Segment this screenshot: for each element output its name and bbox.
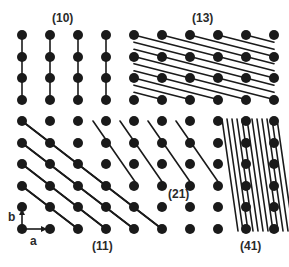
- label-21: (21): [168, 187, 189, 201]
- lattice-point: [17, 95, 27, 105]
- plane-line: [277, 119, 289, 231]
- lattice-point: [17, 73, 27, 83]
- lattice-point: [45, 30, 55, 40]
- lattice-point: [213, 138, 223, 148]
- lattice-point: [45, 52, 55, 62]
- lattice-point: [185, 30, 195, 40]
- lattice-point: [241, 224, 251, 234]
- lattice-point: [73, 116, 83, 126]
- lattice-point: [241, 202, 251, 212]
- lattice-point: [101, 52, 111, 62]
- plane-line: [148, 121, 193, 186]
- lattice-point: [185, 202, 195, 212]
- lattice-point: [157, 181, 167, 191]
- lattice-point: [73, 52, 83, 62]
- lattice-point: [241, 30, 251, 40]
- lattice-planes-diagram: a b (10) (13) (11) (21) (41): [0, 0, 289, 267]
- axis-a-label: a: [30, 234, 37, 248]
- lattice-point: [101, 159, 111, 169]
- lattice-point: [213, 224, 223, 234]
- lattice-point: [241, 116, 251, 126]
- lattice-point: [101, 73, 111, 83]
- lattice-point: [73, 138, 83, 148]
- lattice-point: [129, 52, 139, 62]
- lattice-point: [129, 30, 139, 40]
- axis-b-label: b: [8, 210, 15, 224]
- plane-line: [134, 35, 274, 71]
- lattice-point: [73, 224, 83, 234]
- lattice-point: [45, 116, 55, 126]
- lattice-point: [269, 30, 279, 40]
- plane-line: [134, 49, 274, 85]
- lattice-point: [45, 95, 55, 105]
- label-10: (10): [52, 11, 73, 25]
- lattice-point: [101, 202, 111, 212]
- lattice-point: [185, 95, 195, 105]
- lattice-point: [73, 30, 83, 40]
- lattice-point: [73, 95, 83, 105]
- lattice-point: [73, 73, 83, 83]
- lattice-point: [157, 30, 167, 40]
- lattice-point: [101, 95, 111, 105]
- lattice-point: [213, 181, 223, 191]
- lattice-point: [157, 52, 167, 62]
- lattice-point: [157, 73, 167, 83]
- lattice-point: [73, 181, 83, 191]
- lattice-point: [213, 202, 223, 212]
- plane-line: [134, 42, 274, 78]
- lattice-point: [269, 116, 279, 126]
- lattice-point: [101, 30, 111, 40]
- label-41: (41): [240, 239, 261, 253]
- lattice-point: [185, 116, 195, 126]
- lattice-point: [45, 159, 55, 169]
- lattice-point: [269, 52, 279, 62]
- lattice-point: [241, 95, 251, 105]
- plane-line: [134, 64, 274, 100]
- lattice-point: [185, 73, 195, 83]
- lattice-point: [213, 95, 223, 105]
- lattice-point: [73, 202, 83, 212]
- lattice-point: [101, 116, 111, 126]
- lattice-point: [185, 52, 195, 62]
- lattice-point: [157, 159, 167, 169]
- lattice-point: [241, 73, 251, 83]
- lattice-point: [101, 181, 111, 191]
- lattice-point: [129, 202, 139, 212]
- lattice-point: [17, 52, 27, 62]
- lattice-point: [17, 138, 27, 148]
- plane-line: [120, 121, 165, 186]
- lattice-point: [129, 181, 139, 191]
- lattice-point: [269, 202, 279, 212]
- lattice-point: [157, 138, 167, 148]
- lattice-point: [269, 159, 279, 169]
- lattice-point: [213, 73, 223, 83]
- lattice-point: [45, 181, 55, 191]
- lattice-point: [157, 116, 167, 126]
- lattice-point: [241, 181, 251, 191]
- lattice-point: [185, 224, 195, 234]
- axis-arrows: [19, 209, 47, 232]
- lattice-point: [269, 224, 279, 234]
- plane-line: [22, 121, 162, 229]
- lattice-point: [241, 52, 251, 62]
- lattice-point: [129, 138, 139, 148]
- lattice-point: [129, 224, 139, 234]
- lattice-point: [17, 181, 27, 191]
- lattice-point: [157, 224, 167, 234]
- lattice-point: [45, 138, 55, 148]
- lattice-point: [17, 30, 27, 40]
- lattice-point: [73, 159, 83, 169]
- lattice-point: [241, 159, 251, 169]
- lattice-point: [213, 30, 223, 40]
- plane-line: [134, 57, 274, 93]
- lattice-point: [269, 73, 279, 83]
- lattice-point: [241, 138, 251, 148]
- lattice-point: [269, 138, 279, 148]
- lattice-point: [185, 138, 195, 148]
- lattice-point: [129, 159, 139, 169]
- lattice-point: [269, 95, 279, 105]
- lattice-point: [17, 159, 27, 169]
- lattice-point: [213, 116, 223, 126]
- lattice-point: [45, 202, 55, 212]
- label-11: (11): [92, 239, 113, 253]
